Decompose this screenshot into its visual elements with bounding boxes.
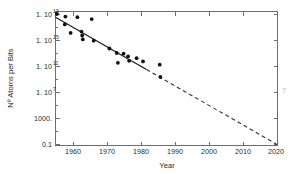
data-point — [90, 17, 94, 21]
trend-line — [56, 17, 278, 144]
y-tick-label-5: 0.1 — [42, 140, 52, 149]
x-tick-label-1960: 1960 — [65, 147, 81, 156]
data-point — [64, 15, 68, 19]
data-point — [63, 23, 67, 27]
data-point — [108, 47, 112, 51]
y-tick-exponent-1: 15 — [53, 34, 59, 40]
data-point — [135, 56, 139, 60]
y-axis-title: Nº Atoms per Bits — [6, 48, 15, 108]
data-point — [80, 30, 84, 34]
data-point — [69, 31, 73, 35]
data-point — [141, 60, 145, 64]
y-tick-label-2: 1. 10 — [36, 62, 52, 71]
y-tick-label-0: 1. 10 — [36, 10, 52, 19]
data-point — [76, 15, 80, 19]
data-point — [81, 38, 85, 42]
right-edge-ghost-mark: 7 — [282, 87, 286, 94]
data-point — [116, 61, 120, 65]
trend-line-solid — [56, 17, 147, 69]
y-tick-label-1: 1. 10 — [36, 36, 52, 45]
data-point — [158, 63, 162, 67]
x-tick-label-1970: 1970 — [99, 147, 115, 156]
chart-figure: 1. 10 19 1. 10 15 1. 10 11 1. 10 7 1000.… — [0, 0, 295, 174]
x-tick-label-2020: 2020 — [268, 147, 284, 156]
y-tick-label-4: 1000. — [34, 114, 52, 123]
x-tick-label-2000: 2000 — [201, 147, 217, 156]
data-point — [92, 39, 96, 43]
x-tick-label-2010: 2010 — [235, 147, 251, 156]
scatter-plot: 1. 10 19 1. 10 15 1. 10 11 1. 10 7 1000.… — [0, 0, 295, 174]
y-tick-label-3: 1. 10 — [36, 88, 52, 97]
y-tick-exponent-2: 11 — [53, 60, 58, 66]
data-point — [126, 54, 130, 58]
data-point — [127, 59, 131, 63]
data-point — [159, 75, 163, 79]
x-tick-labels: 1960 1970 1980 1990 2000 2010 2020 — [65, 147, 284, 156]
y-tick-exponent-3: 7 — [53, 86, 56, 92]
x-axis-ticks — [73, 12, 277, 146]
y-axis-ticks — [56, 14, 278, 144]
data-point — [80, 34, 84, 38]
trend-line-dashed — [147, 70, 278, 145]
x-tick-label-1990: 1990 — [167, 147, 183, 156]
x-axis-title: Year — [159, 161, 175, 170]
x-tick-label-1980: 1980 — [133, 147, 149, 156]
data-point — [122, 52, 126, 56]
data-point — [55, 12, 59, 16]
data-point — [115, 51, 119, 55]
